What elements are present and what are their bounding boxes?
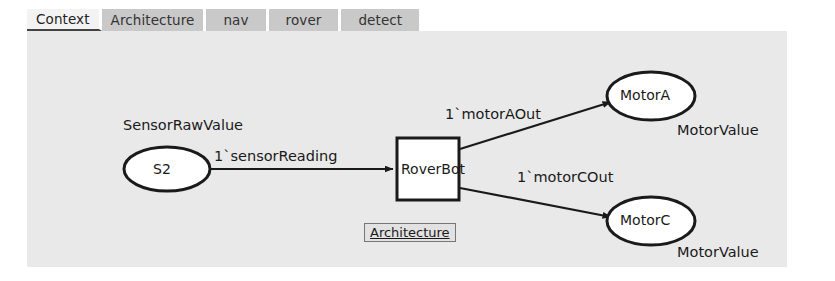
tab-architecture[interactable]: Architecture (102, 9, 207, 31)
arc-motor-c-out[interactable] (460, 188, 611, 217)
tab-architecture-label: Architecture (111, 11, 195, 29)
place-motora-label: MotorA (620, 87, 670, 103)
arc-sensor-reading-label: 1`sensorReading (214, 148, 337, 164)
colourset-motorvalue-a: MotorValue (677, 122, 759, 138)
place-motorc-label: MotorC (620, 212, 670, 228)
arc-motor-a-out-label: 1`motorAOut (445, 106, 541, 122)
tab-nav[interactable]: nav (206, 9, 268, 31)
tab-context-label: Context (36, 10, 90, 28)
tab-strip: Context Architecture nav rover detect (27, 9, 422, 31)
colourset-motorvalue-c: MotorValue (677, 244, 759, 260)
tab-nav-label: nav (223, 11, 248, 29)
tab-rover-label: rover (286, 11, 322, 29)
transition-roverbot-label: RoverBot (401, 161, 465, 177)
tab-context[interactable]: Context (27, 9, 102, 31)
tab-detect[interactable]: detect (341, 9, 422, 31)
substitution-tag-architecture[interactable]: Architecture (364, 223, 456, 242)
tab-rover[interactable]: rover (269, 9, 342, 31)
diagram-canvas[interactable]: S2 RoverBot MotorA MotorC SensorRawValue… (27, 31, 787, 267)
arc-motor-c-out-label: 1`motorCOut (517, 169, 613, 185)
tab-detect-label: detect (358, 11, 402, 29)
colourset-sensorrawvalue: SensorRawValue (123, 117, 243, 133)
place-s2-label: S2 (153, 161, 171, 177)
